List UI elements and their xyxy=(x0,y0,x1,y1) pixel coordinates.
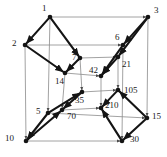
graph-node[interactable] xyxy=(120,139,125,144)
graph-edge xyxy=(102,110,121,139)
graph-edge xyxy=(82,57,116,58)
graph-node[interactable] xyxy=(80,90,85,95)
node-label-105: 105 xyxy=(124,86,138,95)
graph-edge xyxy=(84,90,116,92)
graph-edge xyxy=(120,92,146,117)
node-label-7: 7 xyxy=(72,53,77,62)
graph-node[interactable] xyxy=(116,88,121,93)
graph-node[interactable] xyxy=(63,71,68,76)
node-label-10: 10 xyxy=(5,134,14,143)
graph-node[interactable] xyxy=(48,15,53,20)
graph-edge xyxy=(80,60,82,90)
graph-node[interactable] xyxy=(78,56,83,61)
graph-node[interactable] xyxy=(145,116,150,121)
graph-node[interactable] xyxy=(99,74,104,79)
node-label-6: 6 xyxy=(115,33,120,42)
graph-edge xyxy=(50,113,145,118)
node-label-35: 35 xyxy=(75,96,84,105)
edge-layer xyxy=(25,17,148,141)
graph-edge xyxy=(64,108,99,110)
hasse-diagram-svg xyxy=(0,0,167,157)
node-label-21: 21 xyxy=(122,60,131,69)
graph-node[interactable] xyxy=(116,55,121,60)
node-layer xyxy=(23,15,151,144)
graph-edge xyxy=(25,47,26,139)
graph-edge xyxy=(119,19,146,55)
node-label-3: 3 xyxy=(154,6,159,15)
graph-node[interactable] xyxy=(146,15,151,20)
node-label-14: 14 xyxy=(55,77,64,86)
graph-edge xyxy=(51,19,78,56)
node-label-30: 30 xyxy=(130,135,139,144)
node-label-1: 1 xyxy=(42,4,47,13)
graph-node[interactable] xyxy=(121,43,126,48)
graph-edge xyxy=(26,19,48,44)
node-label-70: 70 xyxy=(67,112,76,121)
graph-edge xyxy=(102,47,121,74)
graph-node[interactable] xyxy=(24,139,29,144)
diagram-canvas: 1235671014152130354270105210 xyxy=(0,0,167,157)
node-label-42: 42 xyxy=(89,66,98,75)
node-label-2: 2 xyxy=(12,39,17,48)
graph-edge xyxy=(28,111,61,139)
graph-node[interactable] xyxy=(23,43,28,48)
graph-node[interactable] xyxy=(99,106,104,111)
node-label-5: 5 xyxy=(36,107,41,116)
graph-edge xyxy=(48,19,50,111)
graph-edge xyxy=(147,19,148,116)
graph-node[interactable] xyxy=(60,108,65,113)
graph-edge xyxy=(27,46,63,71)
node-label-210: 210 xyxy=(105,101,119,110)
node-label-15: 15 xyxy=(152,112,161,121)
graph-node[interactable] xyxy=(46,111,51,116)
